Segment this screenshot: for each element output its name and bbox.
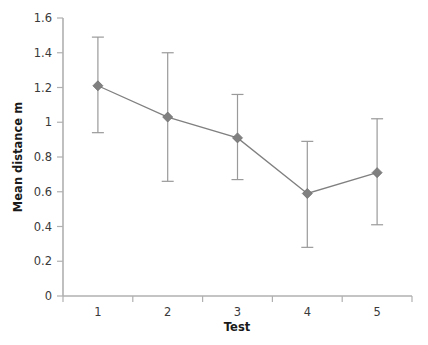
x-axis-group: 12345 Test bbox=[63, 296, 412, 334]
y-axis-tick-labels: 00.20.40.60.811.21.41.6 bbox=[34, 11, 52, 303]
x-axis-tick-labels: 12345 bbox=[94, 305, 381, 319]
x-axis-ticks bbox=[63, 296, 412, 302]
y-tick-label: 1.6 bbox=[34, 11, 52, 25]
x-tick-label: 4 bbox=[304, 305, 311, 319]
y-tick-label: 1.4 bbox=[34, 46, 52, 60]
y-tick-label: 1.2 bbox=[34, 81, 52, 95]
y-tick-label: 1 bbox=[45, 115, 52, 129]
line-chart-with-error-bars: 00.20.40.60.811.21.41.6 Mean distance m … bbox=[0, 0, 428, 345]
y-axis-title: Mean distance m bbox=[11, 102, 25, 212]
y-tick-label: 0 bbox=[45, 289, 52, 303]
x-tick-label: 3 bbox=[234, 305, 241, 319]
y-axis-ticks bbox=[57, 18, 63, 296]
data-series-group bbox=[92, 37, 383, 247]
y-axis-group: 00.20.40.60.811.21.41.6 Mean distance m bbox=[11, 11, 63, 303]
data-point-marker bbox=[93, 81, 103, 91]
y-tick-label: 0.2 bbox=[34, 254, 52, 268]
x-axis-title: Test bbox=[224, 320, 251, 334]
data-point-marker bbox=[372, 168, 382, 178]
x-tick-label: 1 bbox=[94, 305, 101, 319]
y-tick-label: 0.8 bbox=[34, 150, 52, 164]
x-tick-label: 5 bbox=[373, 305, 380, 319]
chart-container: 00.20.40.60.811.21.41.6 Mean distance m … bbox=[0, 0, 428, 345]
y-tick-label: 0.6 bbox=[34, 185, 52, 199]
y-tick-label: 0.4 bbox=[34, 220, 52, 234]
data-point-marker bbox=[163, 112, 173, 122]
x-tick-label: 2 bbox=[164, 305, 171, 319]
